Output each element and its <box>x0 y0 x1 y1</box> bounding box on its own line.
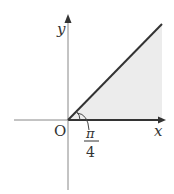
y-axis-label: y <box>56 20 66 38</box>
origin-label: O <box>54 122 66 140</box>
x-axis-label: x <box>154 122 163 140</box>
angle-region-diagram: y x O π 4 <box>0 0 174 194</box>
angle-numerator: π <box>85 126 95 141</box>
angle-denominator: 4 <box>86 144 95 160</box>
diagram-canvas: y x O π 4 <box>0 0 174 194</box>
y-axis-arrow-icon <box>65 14 72 23</box>
